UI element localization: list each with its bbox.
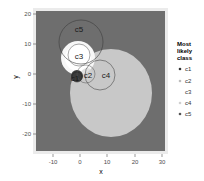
legend: Most likely class c1 c2 c3 c4 c5 [177,41,193,117]
legend-label: c5 [185,111,192,117]
label-c3: c3 [75,52,84,61]
x-tick-label: 10 [104,159,111,165]
legend-key-c4 [179,102,182,105]
legend-key-c5 [179,113,182,116]
x-tick-label: 0 [78,159,82,165]
label-c2: c2 [84,71,93,80]
x-axis: -10 0 10 20 30 x [49,154,166,175]
y-tick-label: 0 [28,71,32,77]
legend-label: c1 [185,66,192,72]
x-tick-label: 30 [159,159,166,165]
label-c1: c1 [71,74,80,83]
x-tick-label: 20 [132,159,139,165]
label-c4: c4 [102,71,111,80]
x-tick-label: -10 [49,159,58,165]
legend-key-c2 [179,80,182,83]
legend-key-c3 [179,91,182,94]
legend-label: c2 [185,78,192,84]
legend-title-line: likely [177,48,193,54]
y-tick-label: -20 [22,131,31,137]
legend-label: c3 [185,89,192,95]
y-tick-label: 10 [24,41,31,47]
legend-key-c1 [179,68,182,71]
chart: c5 c3 c1 c2 c4 20 10 0 -10 -20 y -10 0 1… [0,0,204,181]
legend-title-line: class [177,55,193,61]
legend-label: c4 [185,100,192,106]
y-tick-label: -10 [22,101,31,107]
y-axis-title: y [12,75,20,79]
label-c5: c5 [75,25,84,34]
y-axis: 20 10 0 -10 -20 y [12,11,36,137]
y-tick-label: 20 [24,11,31,17]
legend-title-line: Most [177,41,191,47]
x-axis-title: x [99,168,103,175]
